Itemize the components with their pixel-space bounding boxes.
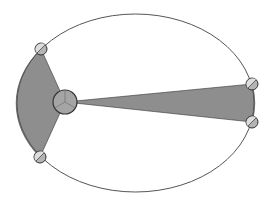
kepler-orbit-diagram bbox=[0, 0, 279, 205]
planet-icon bbox=[34, 151, 46, 163]
planet-icon bbox=[35, 43, 47, 55]
planet-icon bbox=[246, 78, 258, 90]
sun-icon bbox=[53, 90, 77, 114]
area-sectors bbox=[16, 49, 255, 157]
narrow-sector bbox=[65, 84, 255, 122]
planet-icon bbox=[246, 116, 258, 128]
